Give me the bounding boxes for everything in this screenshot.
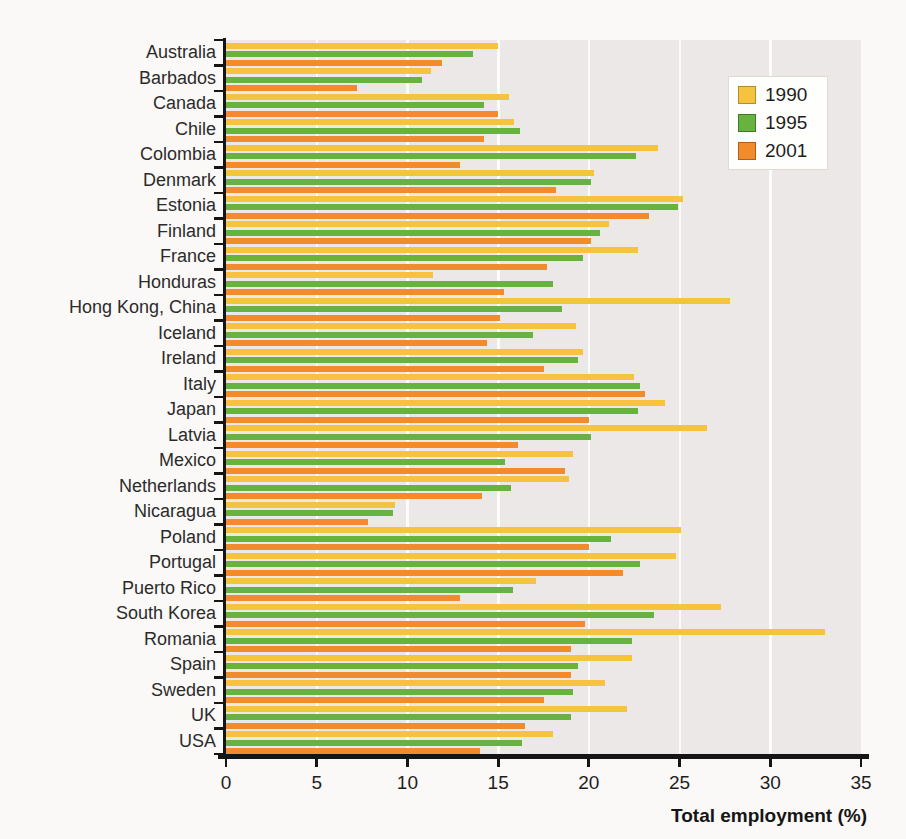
- bar-1990: [226, 400, 665, 406]
- country-label: Netherlands: [5, 474, 216, 500]
- country-label: Japan: [5, 397, 216, 423]
- bar-1990: [226, 170, 594, 176]
- bar-1990: [226, 94, 509, 100]
- bar-1995: [226, 306, 562, 312]
- bar-2001: [226, 570, 623, 576]
- x-tick-30: [769, 759, 772, 767]
- country-label: Colombia: [5, 142, 216, 168]
- bar-1990: [226, 374, 634, 380]
- country-label: Australia: [5, 40, 216, 66]
- bar-1995: [226, 459, 505, 465]
- country-label: UK: [5, 703, 216, 729]
- bar-2001: [226, 519, 368, 525]
- bar-2001: [226, 340, 487, 346]
- bar-2001: [226, 162, 460, 168]
- bar-1990: [226, 196, 683, 202]
- bar-1995: [226, 510, 393, 516]
- bar-1995: [226, 128, 520, 134]
- bar-1990: [226, 298, 730, 304]
- x-tick-15: [497, 759, 500, 767]
- bar-1995: [226, 102, 484, 108]
- country-label: France: [5, 244, 216, 270]
- x-tick-label-0: 0: [198, 772, 254, 794]
- bar-1995: [226, 51, 473, 57]
- bar-2001: [226, 697, 544, 703]
- country-label: Barbados: [5, 66, 216, 92]
- employment-bar-chart: Total employment (%) 199019952001 051015…: [0, 0, 906, 839]
- bar-1995: [226, 179, 591, 185]
- bar-2001: [226, 366, 544, 372]
- bar-1990: [226, 247, 638, 253]
- bar-1990: [226, 655, 632, 661]
- bar-1990: [226, 119, 514, 125]
- country-label: Sweden: [5, 678, 216, 704]
- gridline-25: [679, 40, 682, 754]
- bar-1990: [226, 323, 576, 329]
- x-tick-25: [678, 759, 681, 767]
- country-label: Latvia: [5, 423, 216, 449]
- bar-1995: [226, 332, 533, 338]
- bar-1995: [226, 714, 571, 720]
- country-label: Honduras: [5, 270, 216, 296]
- x-tick-label-15: 15: [470, 772, 526, 794]
- country-label: Romania: [5, 627, 216, 653]
- bar-1995: [226, 383, 640, 389]
- country-label: Iceland: [5, 321, 216, 347]
- country-label: Italy: [5, 372, 216, 398]
- x-tick-10: [406, 759, 409, 767]
- bar-1995: [226, 689, 573, 695]
- bar-1995: [226, 587, 513, 593]
- bar-2001: [226, 544, 589, 550]
- bar-2001: [226, 595, 460, 601]
- bar-1995: [226, 663, 578, 669]
- country-label: Portugal: [5, 550, 216, 576]
- bar-1990: [226, 451, 573, 457]
- country-label: Chile: [5, 117, 216, 143]
- bar-2001: [226, 289, 504, 295]
- bar-2001: [226, 493, 482, 499]
- bar-1990: [226, 349, 583, 355]
- bar-1990: [226, 553, 676, 559]
- bar-2001: [226, 646, 571, 652]
- legend-label-2001: 2001: [765, 140, 807, 162]
- bar-1995: [226, 204, 678, 210]
- bar-2001: [226, 136, 484, 142]
- bar-1995: [226, 434, 591, 440]
- bar-1995: [226, 357, 578, 363]
- country-label: Hong Kong, China: [5, 295, 216, 321]
- bar-1990: [226, 706, 627, 712]
- bar-1990: [226, 425, 707, 431]
- legend-swatch-1995: [738, 114, 756, 132]
- bar-2001: [226, 391, 645, 397]
- x-tick-20: [587, 759, 590, 767]
- country-label: South Korea: [5, 601, 216, 627]
- country-label: Poland: [5, 525, 216, 551]
- x-tick-label-5: 5: [289, 772, 345, 794]
- bar-1990: [226, 502, 395, 508]
- bar-1995: [226, 408, 638, 414]
- bar-1990: [226, 272, 433, 278]
- bar-2001: [226, 748, 480, 754]
- x-tick-label-20: 20: [561, 772, 617, 794]
- legend-swatch-1990: [738, 86, 756, 104]
- legend-item-1990: 1990: [738, 84, 827, 106]
- bar-1995: [226, 740, 522, 746]
- bar-2001: [226, 111, 498, 117]
- x-tick-label-30: 30: [742, 772, 798, 794]
- country-label: Estonia: [5, 193, 216, 219]
- country-label: Canada: [5, 91, 216, 117]
- bar-1995: [226, 281, 553, 287]
- bar-1995: [226, 638, 632, 644]
- bar-1995: [226, 77, 422, 83]
- country-label: Denmark: [5, 168, 216, 194]
- bar-2001: [226, 315, 500, 321]
- legend-item-1995: 1995: [738, 112, 827, 134]
- bar-1995: [226, 153, 636, 159]
- legend-item-2001: 2001: [738, 140, 827, 162]
- bar-1990: [226, 680, 605, 686]
- country-label: Spain: [5, 652, 216, 678]
- country-label: USA: [5, 729, 216, 755]
- bar-2001: [226, 213, 649, 219]
- x-tick-label-35: 35: [833, 772, 889, 794]
- bar-1990: [226, 578, 536, 584]
